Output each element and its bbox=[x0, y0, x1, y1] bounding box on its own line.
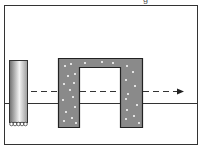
dashed-arrow bbox=[31, 89, 184, 95]
outer-frame bbox=[5, 6, 198, 145]
arrowhead-icon bbox=[177, 89, 184, 95]
diagram-canvas: g bbox=[0, 0, 202, 150]
arch-block bbox=[59, 59, 143, 128]
roller-circles bbox=[10, 122, 28, 126]
top-glyph: g bbox=[143, 0, 148, 4]
cylinder bbox=[10, 61, 28, 126]
